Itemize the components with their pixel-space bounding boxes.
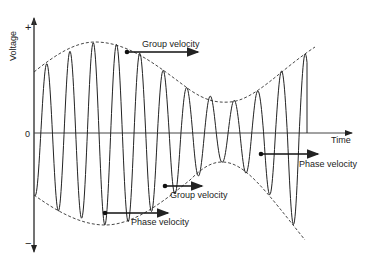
wave-packet-diagram: Voltage + 0 − Time Group velocity Phase … bbox=[0, 0, 365, 266]
diagram-canvas: Voltage + 0 − Time Group velocity Phase … bbox=[0, 0, 365, 266]
group-velocity-bottom-arrow bbox=[163, 184, 202, 189]
lower-envelope bbox=[34, 162, 305, 240]
group-velocity-top-label: Group velocity bbox=[142, 39, 200, 49]
group-velocity-top-arrow bbox=[125, 50, 198, 55]
x-axis-label: Time bbox=[331, 135, 351, 145]
group-velocity-bottom-label: Group velocity bbox=[170, 190, 228, 200]
y-minus-label: − bbox=[25, 237, 31, 249]
y-zero-label: 0 bbox=[25, 129, 30, 139]
y-axis-label: Voltage bbox=[8, 31, 18, 61]
upper-envelope bbox=[34, 42, 315, 102]
phase-velocity-bottom-label: Phase velocity bbox=[131, 217, 190, 227]
phase-velocity-bottom-arrow bbox=[103, 211, 168, 216]
y-plus-label: + bbox=[25, 21, 31, 33]
phase-velocity-right-label: Phase velocity bbox=[299, 159, 358, 169]
